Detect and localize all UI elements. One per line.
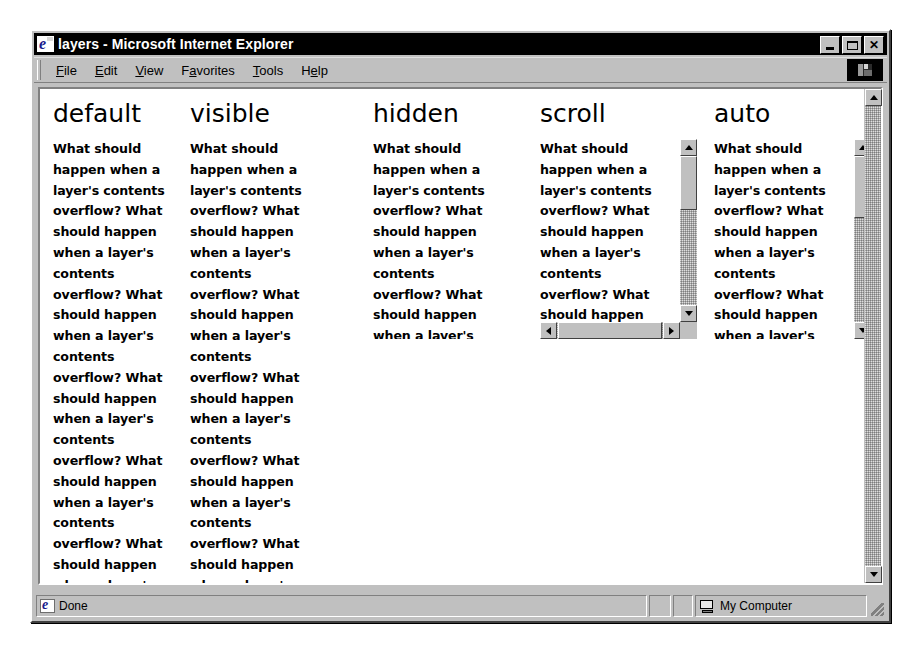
page-scroll-down-button[interactable] [865,566,882,583]
arrow-down-icon [870,572,878,577]
text-auto: What should happen when a layer's conten… [714,139,846,339]
heading-auto: auto [714,99,864,129]
arrow-left-icon [546,327,551,335]
scroll-left-button[interactable] [540,322,557,339]
ie-document-icon [40,599,55,613]
status-zone-label: My Computer [720,599,792,613]
minimize-icon [826,47,834,50]
auto-scroll-down-button[interactable] [854,322,864,339]
status-bar: Done My Computer [36,595,885,617]
menu-item-help[interactable]: Help [292,61,337,80]
document-area: default What should happen when a layer'… [38,87,883,585]
auto-box-viewport: What should happen when a layer's conten… [714,139,854,339]
heading-hidden: hidden [373,99,513,129]
scroll-right-button[interactable] [663,322,680,339]
auto-box-vertical-scrollbar[interactable] [854,139,864,339]
column-default: default What should happen when a layer'… [53,99,185,583]
arrow-up-icon [870,95,878,100]
overflow-box-hidden: What should happen when a layer's conten… [373,139,513,339]
scroll-down-button[interactable] [680,305,697,322]
menu-bar: File Edit View Favorites Tools Help [34,57,887,83]
menu-item-favorites[interactable]: Favorites [172,61,243,80]
heading-default: default [53,99,185,129]
menu-item-edit[interactable]: Edit [86,61,126,80]
browser-window: layers - Microsoft Internet Explorer ✕ F… [30,29,891,623]
menu-drag-handle[interactable] [37,60,41,80]
window-title: layers - Microsoft Internet Explorer [58,36,293,52]
text-scroll: What should happen when a layer's conten… [540,139,654,322]
page-canvas: default What should happen when a layer'… [40,89,864,583]
auto-vertical-thumb[interactable] [854,156,864,218]
text-hidden: What should happen when a layer's conten… [373,139,505,339]
arrow-right-icon [669,327,674,335]
close-icon: ✕ [869,40,879,51]
status-message: Done [59,599,88,613]
auto-scroll-up-button[interactable] [854,139,864,156]
maximize-button[interactable] [842,36,862,54]
column-hidden: hidden What should happen when a layer's… [373,99,513,339]
maximize-icon [847,41,858,50]
computer-icon [699,600,715,613]
text-default: What should happen when a layer's conten… [53,139,185,583]
scroll-up-button[interactable] [680,139,697,156]
menu-item-tools[interactable]: Tools [244,61,292,80]
scroll-box-horizontal-scrollbar[interactable] [540,322,680,339]
column-auto: auto What should happen when a layer's c… [714,99,864,339]
page-vertical-track[interactable] [865,106,881,566]
scroll-horizontal-thumb[interactable] [558,322,662,339]
menu-item-file[interactable]: File [47,61,86,80]
ie-document-icon [37,36,54,52]
close-button[interactable]: ✕ [864,36,884,54]
status-panel-spacer [673,595,693,617]
heading-visible: visible [190,99,322,129]
status-message-panel: Done [36,595,647,617]
status-zone-panel[interactable]: My Computer [695,595,867,617]
column-scroll: scroll What should happen when a layer's… [540,99,697,339]
ie-logo-icon[interactable] [847,59,883,81]
scroll-box-viewport: What should happen when a layer's conten… [540,139,680,322]
title-bar[interactable]: layers - Microsoft Internet Explorer ✕ [34,33,887,55]
overflow-box-auto[interactable]: What should happen when a layer's conten… [714,139,864,339]
page-scroll-up-button[interactable] [865,89,882,106]
text-visible: What should happen when a layer's conten… [190,139,322,583]
window-controls: ✕ [820,36,884,54]
scroll-vertical-thumb[interactable] [680,156,697,210]
menu-item-view[interactable]: View [126,61,172,80]
overflow-box-scroll[interactable]: What should happen when a layer's conten… [540,139,697,339]
status-panel-progress [649,595,671,617]
page-vertical-scrollbar[interactable] [864,89,881,583]
scroll-box-vertical-scrollbar[interactable] [680,139,697,322]
arrow-up-icon [685,145,693,150]
scrollbar-corner [680,322,697,339]
heading-scroll: scroll [540,99,697,129]
column-visible: visible What should happen when a layer'… [190,99,322,583]
minimize-button[interactable] [820,36,840,54]
resize-grip[interactable] [869,595,885,617]
arrow-down-icon [685,311,693,316]
